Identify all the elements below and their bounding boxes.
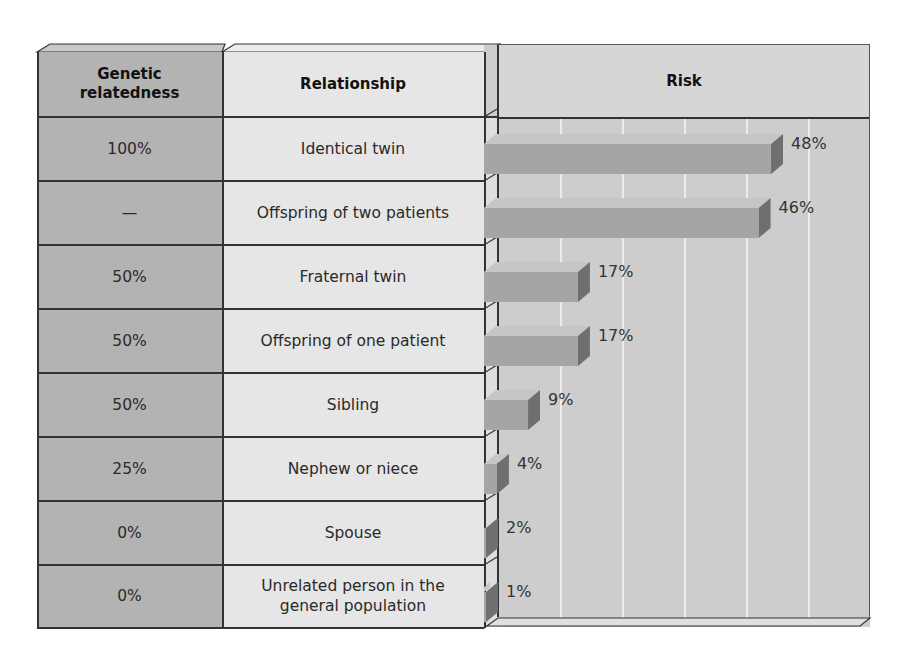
risk-table: Genetic relatedness Relationship Risk 10… [0, 0, 906, 664]
relatedness-cell: 25% [37, 437, 222, 501]
relationship-cell: Offspring of one patient [222, 309, 484, 373]
header-relationship: Relationship [222, 52, 484, 116]
relatedness-cell: 100% [37, 117, 222, 181]
relatedness-cell: 0% [37, 565, 222, 627]
header-risk-label: Risk [666, 72, 702, 91]
risk-bar [484, 336, 578, 366]
bar-value-label: 4% [517, 454, 542, 473]
bar-top-face [484, 134, 783, 144]
gridline-40 [746, 118, 748, 618]
risk-bar [484, 528, 486, 558]
relatedness-cell: 50% [37, 373, 222, 437]
bar-value-label: 46% [779, 198, 815, 217]
risk-bar [484, 592, 486, 622]
row-divider [498, 117, 870, 119]
bar-value-label: 2% [506, 518, 531, 537]
relatedness-cell: 0% [37, 501, 222, 565]
bar-top-face [484, 262, 590, 272]
risk-bar [484, 208, 759, 238]
bar-top-face [484, 198, 771, 208]
risk-bar [484, 144, 771, 174]
relatedness-cell: 50% [37, 245, 222, 309]
bar-value-label: 9% [548, 390, 573, 409]
gridline-50 [808, 118, 810, 618]
relationship-cell: Identical twin [222, 117, 484, 181]
table-bottom-border [37, 627, 484, 629]
relationship-cell: Fraternal twin [222, 245, 484, 309]
relationship-cell: Sibling [222, 373, 484, 437]
relationship-cell: Offspring of two patients [222, 181, 484, 245]
chart-floor [484, 614, 876, 634]
header-relationship-label: Relationship [300, 75, 406, 94]
chart-right-border [869, 45, 870, 617]
gridline-20 [622, 118, 624, 618]
bar-top-face [484, 326, 590, 336]
gridline-30 [684, 118, 686, 618]
relatedness-cell: — [37, 181, 222, 245]
relationship-line1: Unrelated person in the [261, 576, 444, 596]
risk-bar [484, 272, 578, 302]
relationship-line2: general population [280, 596, 426, 616]
bar-value-label: 1% [506, 582, 531, 601]
header-genetic-relatedness: Genetic relatedness [37, 52, 222, 116]
relationship-cell: Spouse [222, 501, 484, 565]
bar-value-label: 17% [598, 326, 634, 345]
bar-value-label: 48% [791, 134, 827, 153]
header-genetic-relatedness-line2: relatedness [80, 84, 180, 103]
risk-bar [484, 400, 528, 430]
bar-value-label: 17% [598, 262, 634, 281]
gridline-10 [560, 118, 562, 618]
header-genetic-relatedness-line1: Genetic [97, 65, 162, 84]
relationship-cell: Nephew or niece [222, 437, 484, 501]
relatedness-cell: 50% [37, 309, 222, 373]
relationship-cell: Unrelated person in the general populati… [222, 565, 484, 627]
risk-bar [484, 464, 497, 494]
header-risk: Risk [498, 45, 870, 117]
